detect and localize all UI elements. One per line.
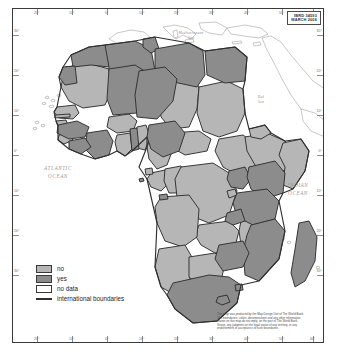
disclaimer-block: This map was produced by the Map Design … [217,313,321,331]
map-id-box: IBRD 34593 MARCH 2006 [287,11,321,25]
graticule-label-left: 20° [14,229,19,233]
graticule-label-right: 0° [319,149,322,153]
red-sea-line2: Sea [258,100,264,104]
legend-item-no: no [36,264,176,274]
graticule-label-bottom: 10° [69,337,74,341]
graticule-tick-right [317,35,323,36]
legend-label-international-boundaries: international boundaries [57,295,124,302]
graticule-label-right: 20° [317,69,322,73]
graticule-label-top: 40° [244,11,249,15]
graticule-label-right: 10° [317,109,322,113]
graticule-tick-left [13,155,19,156]
graticule-label-right: 20° [317,229,322,233]
legend-line-international-boundaries [36,295,52,303]
red-sea-label: Red Sea [251,95,271,105]
mediterranean-sea-label: Mediterranean Sea [161,31,221,41]
graticule-label-left: 10° [14,189,19,193]
graticule-label-bottom: 20° [34,337,39,341]
mediterranean-sea-line2: Sea [188,36,194,40]
graticule-tick-right [317,195,323,196]
graticule-tick-left [13,75,19,76]
graticule-label-top: 10° [69,11,74,15]
graticule-tick-left [13,195,19,196]
graticule-label-bottom: 50° [279,337,284,341]
graticule-label-bottom: 60° [310,337,315,341]
graticule-tick-right [317,235,323,236]
graticule-label-right: 10° [317,189,322,193]
legend-swatch-no-data [36,285,52,293]
graticule-tick-left [13,115,19,116]
graticule-tick-right [317,75,323,76]
legend-label-no: no [57,265,64,272]
mediterranean-sea-line1: Mediterranean [179,31,204,35]
map-frame: 20° 10° 0° 10° 20° 30° 40° 50° 20° 10° 0… [12,8,324,343]
legend-label-no-data: no data [57,285,78,292]
graticule-label-top: 10° [139,11,144,15]
red-sea-line1: Red [258,95,264,99]
graticule-label-left: 30° [14,269,19,273]
graticule-label-bottom: 0° [105,337,108,341]
graticule-label-bottom: 30° [209,337,214,341]
graticule-label-right: 30° [317,29,322,33]
graticule-tick-right [317,115,323,116]
graticule-label-left: 30° [14,29,19,33]
graticule-label-left: 10° [14,109,19,113]
graticule-label-top: 30° [209,11,214,15]
graticule-label-top: 20° [34,11,39,15]
disclaimer-line-5: endorsement or acceptance of such bounda… [217,327,321,331]
graticule-label-bottom: 40° [244,337,249,341]
graticule-label-top: 20° [174,11,179,15]
map-date: MARCH 2006 [291,18,317,23]
graticule-tick-left [13,275,19,276]
graticule-tick-left [13,35,19,36]
legend-swatch-yes [36,275,52,283]
graticule-tick-right [317,155,323,156]
legend-item-no-data: no data [36,284,176,294]
legend-swatch-no [36,265,52,273]
graticule-tick-left [13,235,19,236]
graticule-label-bottom: 10° [139,337,144,341]
legend-item-international-boundaries: international boundaries [36,294,176,304]
graticule-label-left: 20° [14,69,19,73]
graticule-label-left: 0° [14,149,17,153]
graticule-label-top: 50° [279,11,284,15]
legend-label-yes: yes [57,275,67,282]
graticule-tick-right [317,275,323,276]
graticule-label-bottom: 20° [174,337,179,341]
legend: no yes no data international boundaries [36,264,176,304]
graticule-label-right: 30° [317,269,322,273]
map-figure: 20° 10° 0° 10° 20° 30° 40° 50° 20° 10° 0… [0,0,337,360]
legend-item-yes: yes [36,274,176,284]
graticule-label-top: 0° [105,11,108,15]
